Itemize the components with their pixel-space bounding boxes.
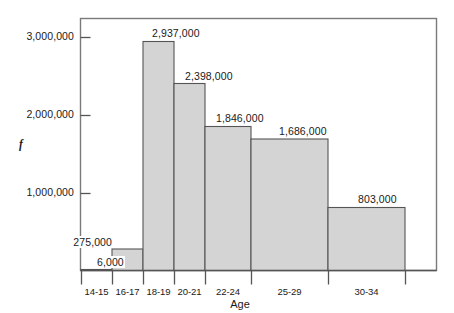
bar-value-label-25-29: 1,686,000	[278, 125, 328, 137]
y-tick-label-1000000: 1,000,000	[0, 186, 74, 198]
x-axis-title: Age	[205, 298, 275, 310]
bar-value-label-14-15: 6,000	[96, 256, 125, 268]
bar-value-label-18-19: 2,937,000	[151, 27, 201, 39]
x-category-label-30-34: 30-34	[328, 286, 405, 297]
histogram-plot-svg	[0, 0, 454, 313]
bar-25-29	[251, 139, 328, 271]
x-category-label-25-29: 25-29	[251, 286, 328, 297]
bar-22-24	[205, 127, 251, 271]
histogram-bars	[81, 42, 405, 271]
bar-20-21	[174, 84, 205, 271]
bar-value-label-20-21: 2,398,000	[184, 70, 234, 82]
y-axis-ticks	[81, 38, 91, 194]
y-axis-title: f	[19, 138, 23, 150]
bar-value-label-22-24: 1,846,000	[215, 112, 265, 124]
histogram-figure: 3,000,000 2,000,000 1,000,000 f 6,000 27…	[0, 0, 454, 313]
x-category-label-14-15: 14-15	[81, 286, 112, 297]
bar-value-label-30-34: 803,000	[357, 193, 398, 205]
bar-value-label-16-17: 275,000	[72, 236, 113, 248]
x-category-label-22-24: 22-24	[205, 286, 251, 297]
y-tick-label-2000000: 2,000,000	[0, 108, 74, 120]
x-axis-ticks	[82, 271, 406, 285]
x-category-label-18-19: 18-19	[143, 286, 174, 297]
x-category-label-20-21: 20-21	[174, 286, 205, 297]
x-category-label-16-17: 16-17	[112, 286, 143, 297]
y-tick-label-3000000: 3,000,000	[0, 30, 74, 42]
bar-18-19	[143, 42, 174, 271]
bar-30-34	[328, 208, 405, 271]
